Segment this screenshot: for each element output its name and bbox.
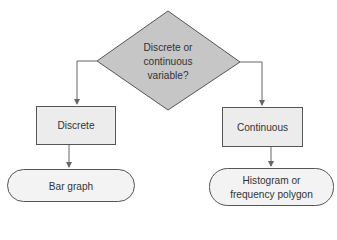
connector-decision-to-discrete	[77, 61, 97, 104]
decision-label-line1: Discrete or	[144, 40, 193, 54]
decision-label: Discrete or continuous variable?	[124, 36, 212, 86]
histogram-label-line1: Histogram or	[243, 173, 301, 187]
bar-graph-label: Bar graph	[15, 169, 128, 202]
continuous-label: Continuous	[227, 107, 298, 146]
decision-label-line3: variable?	[147, 68, 188, 82]
histogram-label-line2: frequency polygon	[230, 187, 313, 201]
connector-decision-to-continuous	[240, 62, 262, 105]
histogram-label: Histogram or frequency polygon	[217, 168, 327, 206]
discrete-label: Discrete	[41, 106, 111, 144]
decision-label-line2: continuous	[144, 54, 193, 68]
